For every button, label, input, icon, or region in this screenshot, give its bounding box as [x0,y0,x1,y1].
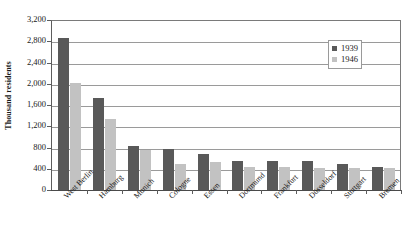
bar [232,161,243,190]
bar-group [52,20,87,190]
legend-item: 1939 [332,43,358,54]
y-axis-tick-label: 2,000 [27,79,46,88]
bar-group [87,20,122,190]
legend-swatch-icon [332,57,337,62]
y-axis-tick-label: 1,600 [27,100,46,109]
legend-item-label: 1939 [341,44,358,53]
y-axis-title-text: Thousand residents [4,61,13,130]
y-axis-tick-label: 800 [33,143,46,152]
y-axis-tick-label: 2,400 [27,58,46,67]
legend-item: 1946 [332,54,358,65]
bar-group [366,20,401,190]
bar [58,38,69,190]
y-axis-tick-label: 1,200 [27,121,46,130]
bar-group [261,20,296,190]
y-axis-title: Thousand residents [1,0,15,190]
bar-group [122,20,157,190]
bar [198,154,209,190]
y-axis-tick-label: 0 [42,185,46,194]
bar [372,167,383,190]
y-axis-tick-label: 400 [33,164,46,173]
legend: 19391946 [328,40,362,69]
y-axis-tick-label: 2,800 [27,36,46,45]
bar [93,98,104,190]
bar-group [227,20,262,190]
bar-chart: Thousand residents 3,2002,8002,4002,0001… [0,0,420,249]
legend-swatch-icon [332,46,337,51]
bar-group [192,20,227,190]
legend-item-label: 1946 [341,55,358,64]
bar [163,149,174,190]
bar [128,146,139,190]
bar [337,164,348,190]
bar [302,161,313,190]
y-axis-tick-label: 3,200 [27,15,46,24]
bar-group [296,20,331,190]
x-axis-category-labels: West BerlinHamburgMunichCologneEssenDort… [0,194,420,249]
bar-group [157,20,192,190]
bar [70,83,81,190]
bar [267,161,278,190]
